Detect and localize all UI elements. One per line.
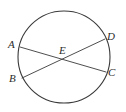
geometry-figure: A B C D E xyxy=(0,0,126,112)
geometry-canvas xyxy=(0,0,126,112)
point-label-a: A xyxy=(8,39,15,50)
circle-outline xyxy=(18,11,110,103)
point-label-d: D xyxy=(107,31,115,42)
point-label-b: B xyxy=(9,73,16,84)
point-label-e: E xyxy=(59,45,66,56)
point-label-c: C xyxy=(108,67,115,78)
